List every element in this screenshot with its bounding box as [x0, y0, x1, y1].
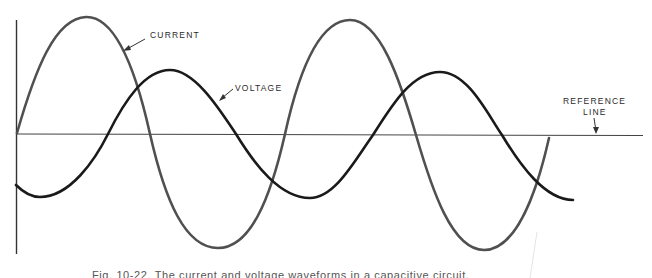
waveform-diagram: CURRENT VOLTAGE REFERENCE LINE [0, 0, 652, 278]
paper-mark [530, 232, 537, 278]
reference-label-group: REFERENCE LINE [563, 96, 626, 134]
voltage-label: VOLTAGE [235, 83, 282, 93]
current-waveform [17, 17, 549, 250]
figure-caption: Fig. 10-22. The current and voltage wave… [92, 269, 469, 278]
reference-label-line2: LINE [583, 107, 607, 117]
current-label: CURRENT [150, 30, 200, 40]
reference-label-line1: REFERENCE [563, 96, 626, 106]
voltage-label-group: VOLTAGE [219, 83, 282, 101]
reference-arrowhead-icon [593, 127, 599, 134]
current-label-group: CURRENT [123, 30, 200, 51]
reference-line [16, 134, 643, 136]
current-arrowhead-icon [123, 45, 131, 51]
